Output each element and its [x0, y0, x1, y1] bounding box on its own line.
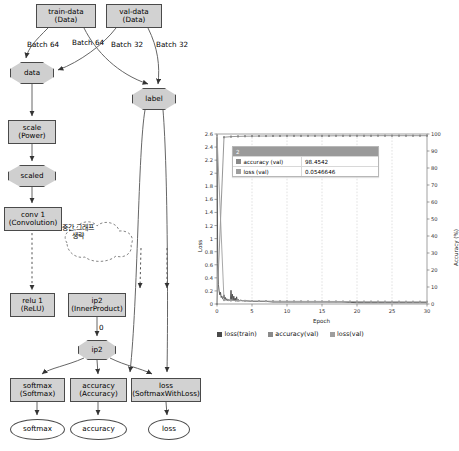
graph-node-label: data: [24, 69, 40, 77]
graph-edge-label: Batch 64: [27, 40, 59, 49]
chart-x-tick: 25: [384, 308, 400, 314]
graph-node-ip2oct[interactable]: ip2: [78, 340, 116, 360]
graph-node-softmaxbox[interactable]: softmax(Softmax): [10, 378, 65, 402]
graph-node-label: loss: [162, 425, 176, 433]
graph-node-sublabel: (InnerProduct): [71, 305, 123, 313]
graph-node-label: label: [145, 95, 162, 103]
chart-legend: loss(train)accuracy(val)loss(val): [217, 330, 364, 338]
graph-node-sublabel: (Convolution): [9, 219, 58, 227]
graph-node-sublabel: (Data): [55, 16, 78, 24]
graph-edge-label: 0: [99, 323, 104, 332]
training-chart: 00.20.40.60.811.21.41.61.822.22.42.60102…: [195, 122, 459, 354]
chart-tooltip: 2 accuracy (val)98.4542loss (val)0.05466…: [232, 146, 379, 177]
graph-edge-label: Batch 64: [72, 38, 104, 47]
chart-y2-tick: 40: [431, 233, 438, 239]
chart-x-tick: 10: [279, 308, 295, 314]
chart-y2-tick: 50: [431, 216, 438, 222]
graph-edge-label: Batch 32: [111, 40, 143, 49]
chart-y2-tick: 70: [431, 182, 438, 188]
chart-y-tick: 0.4: [195, 275, 213, 281]
chart-y2-tick: 30: [431, 250, 438, 256]
graph-node-conv1[interactable]: conv 1(Convolution): [4, 207, 62, 231]
chart-x-tick: 0: [209, 308, 225, 314]
chart-y-tick: 2.2: [195, 157, 213, 163]
chart-y-tick: 1.4: [195, 209, 213, 215]
screenshot-root: train-data(Data)val-data(Data)datalabels…: [0, 0, 459, 451]
tooltip-rows: accuracy (val)98.4542loss (val)0.0546646: [233, 156, 378, 176]
chart-y-axis-title: Loss: [197, 240, 203, 252]
graph-node-label: softmax: [23, 425, 52, 433]
chart-legend-item[interactable]: loss(val): [330, 330, 364, 338]
graph-node-train-data[interactable]: train-data(Data): [36, 4, 96, 28]
chart-y-tick: 2.6: [195, 131, 213, 137]
tooltip-row: loss (val)0.0546646: [233, 166, 378, 176]
chart-y-tick: 1.8: [195, 183, 213, 189]
chart-legend-label: loss(val): [337, 330, 364, 338]
graph-node-sublabel: (Data): [123, 16, 146, 24]
graph-node-sublabel: (Power): [18, 132, 45, 140]
tooltip-series-value: 98.4542: [301, 157, 378, 166]
graph-node-label: accuracy: [82, 425, 114, 433]
graph-node-val-data[interactable]: val-data(Data): [106, 4, 162, 28]
chart-y-tick: 0: [195, 301, 213, 307]
legend-swatch-icon: [330, 332, 335, 337]
chart-y2-tick: 10: [431, 284, 438, 290]
tooltip-row: accuracy (val)98.4542: [233, 156, 378, 166]
graph-node-accuracyout[interactable]: accuracy: [70, 419, 127, 440]
chart-y-tick: 2.4: [195, 144, 213, 150]
chart-legend-label: accuracy(val): [275, 330, 318, 338]
tooltip-swatch-icon: [236, 169, 241, 174]
tooltip-swatch-icon: [236, 159, 241, 164]
omitted-graph-line2: 생략: [62, 232, 94, 240]
chart-x-tick: 15: [314, 308, 330, 314]
graph-node-label: scaled: [20, 172, 43, 180]
chart-y2-tick: 60: [431, 199, 438, 205]
graph-node-relu1[interactable]: relu 1(ReLU): [10, 293, 55, 317]
graph-node-label[interactable]: label: [132, 88, 176, 110]
graph-node-lossout[interactable]: loss: [148, 419, 190, 440]
chart-y2-tick: 100: [431, 131, 441, 137]
graph-node-sublabel: (ReLU): [21, 305, 45, 313]
chart-y-tick: 2: [195, 170, 213, 176]
graph-node-sublabel: (SoftmaxWithLoss): [132, 390, 200, 398]
legend-swatch-icon: [217, 332, 222, 337]
graph-node-scale[interactable]: scale(Power): [8, 120, 56, 144]
graph-node-accuracybox[interactable]: accuracy(Accuracy): [70, 378, 127, 402]
chart-x-tick: 5: [244, 308, 260, 314]
chart-y-tick: 1.6: [195, 196, 213, 202]
tooltip-series-name: accuracy (val): [244, 159, 284, 165]
graph-node-ip2box[interactable]: ip2(InnerProduct): [68, 293, 126, 317]
tooltip-series-value: 0.0546646: [301, 167, 378, 176]
graph-edge-label: Batch 32: [156, 40, 188, 49]
chart-y-tick: 0.2: [195, 288, 213, 294]
chart-x-tick: 20: [349, 308, 365, 314]
chart-x-axis-title: Epoch: [313, 318, 330, 324]
omitted-graph-label: 중간 그래프 생략: [62, 224, 94, 241]
graph-node-label: ip2: [91, 346, 102, 354]
graph-node-softmaxout[interactable]: softmax: [10, 419, 65, 440]
legend-swatch-icon: [268, 332, 273, 337]
graph-node-sublabel: (Accuracy): [79, 390, 117, 398]
tooltip-header: 2: [233, 147, 378, 156]
graph-node-data[interactable]: data: [10, 62, 54, 84]
chart-legend-item[interactable]: loss(train): [217, 330, 257, 338]
chart-y-tick: 1.2: [195, 223, 213, 229]
chart-y2-tick: 0: [431, 301, 434, 307]
graph-node-scaled[interactable]: scaled: [8, 165, 56, 187]
graph-node-lossbox[interactable]: loss(SoftmaxWithLoss): [131, 378, 201, 402]
chart-y2-tick: 20: [431, 267, 438, 273]
chart-y2-tick: 90: [431, 148, 438, 154]
chart-legend-item[interactable]: accuracy(val): [268, 330, 319, 338]
chart-legend-label: loss(train): [225, 330, 257, 338]
tooltip-series-name: loss (val): [244, 169, 269, 175]
chart-y-tick: 0.6: [195, 262, 213, 268]
graph-node-sublabel: (Softmax): [20, 390, 55, 398]
chart-x-tick: 30: [419, 308, 435, 314]
chart-y2-tick: 80: [431, 165, 438, 171]
chart-y2-axis-title: Accuracy (%): [453, 229, 459, 266]
